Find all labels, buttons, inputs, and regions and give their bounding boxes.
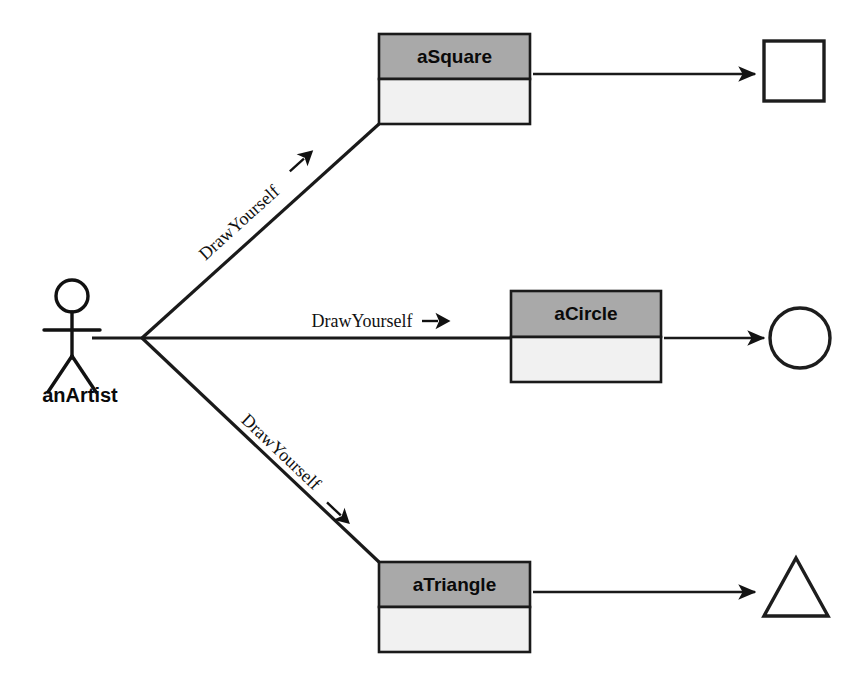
result-shape-triangle (764, 558, 828, 616)
actor-head-icon (56, 280, 88, 312)
object-box-asquare[interactable]: aSquare (379, 34, 530, 124)
message-arrow-circle-icon (422, 316, 448, 327)
object-box-acircle[interactable]: aCircle (511, 291, 661, 382)
message-label-square-group: DrawYourself (195, 148, 315, 264)
object-box-atriangle[interactable]: aTriangle (379, 562, 530, 652)
message-label-circle-group: DrawYourself (311, 311, 448, 331)
actor-label: anArtist (42, 384, 118, 406)
triangle-icon (764, 558, 828, 616)
message-label-triangle: DrawYourself (237, 410, 324, 494)
uml-diagram-canvas: anArtist DrawYourself DrawYourself (0, 0, 863, 679)
message-label-circle: DrawYourself (311, 311, 412, 331)
message-edges (92, 124, 520, 562)
edge-line-square[interactable] (142, 124, 379, 338)
actor-anartist[interactable]: anArtist (42, 280, 118, 406)
circle-icon (770, 308, 830, 368)
object-box-asquare-body (379, 79, 530, 124)
object-box-acircle-body (511, 337, 661, 382)
object-box-atriangle-body (379, 607, 530, 652)
object-box-atriangle-title: aTriangle (413, 574, 496, 595)
result-shape-square (764, 41, 824, 101)
result-shape-circle (770, 308, 830, 368)
square-icon (764, 41, 824, 101)
diagram-svg: anArtist DrawYourself DrawYourself (0, 0, 863, 679)
object-box-acircle-title: aCircle (554, 303, 617, 324)
edge-line-triangle[interactable] (142, 338, 379, 562)
object-box-asquare-title: aSquare (417, 46, 492, 67)
message-arrow-square-icon (286, 148, 315, 175)
message-label-triangle-group: DrawYourself (237, 410, 351, 527)
